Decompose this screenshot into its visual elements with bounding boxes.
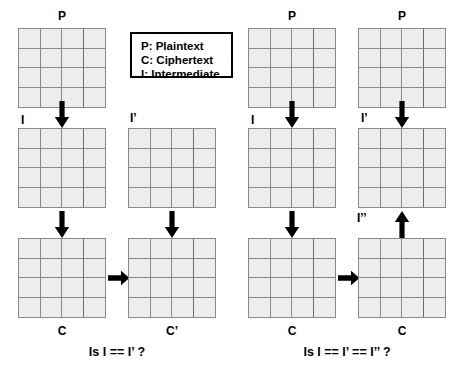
grid-cell: [194, 259, 216, 279]
grid-cell: [194, 188, 216, 208]
grid-cell: [84, 149, 106, 169]
right-label-i-double-prime: I’’: [357, 212, 367, 224]
grid-cell: [402, 29, 424, 49]
grid-cell: [359, 168, 381, 188]
grid-cell: [359, 239, 381, 259]
grid-cell: [292, 168, 314, 188]
grid-cell: [62, 188, 84, 208]
grid-cell: [151, 129, 173, 149]
arrow-down-i-to-c-right: [284, 211, 300, 239]
legend-line-ciphertext: C: Ciphertext: [141, 53, 223, 67]
grid-cell: [292, 149, 314, 169]
grid-cell: [62, 278, 84, 298]
grid-cell: [359, 68, 381, 88]
grid-cell: [271, 68, 293, 88]
left-label-c-prime: C’: [128, 325, 216, 337]
grid-cell: [19, 259, 41, 279]
arrow-down-p-to-i-prime-right: [394, 101, 410, 129]
grid-cell: [424, 278, 446, 298]
arrow-down-i-prime-to-c-prime: [164, 211, 180, 239]
grid-cell: [424, 29, 446, 49]
grid-cell: [271, 168, 293, 188]
grid-cell: [62, 49, 84, 69]
grid-cell: [19, 68, 41, 88]
grid-cell: [402, 259, 424, 279]
grid-cell: [359, 188, 381, 208]
grid-cell: [84, 68, 106, 88]
grid-cell: [41, 239, 63, 259]
grid-cell: [314, 149, 336, 169]
grid-cell: [292, 68, 314, 88]
grid-cell: [41, 129, 63, 149]
grid-cell: [424, 239, 446, 259]
grid-cell: [402, 49, 424, 69]
grid-cell: [271, 298, 293, 318]
left-grid-c-prime: [128, 238, 216, 318]
arrow-down-p-to-i-right: [284, 101, 300, 129]
left-label-p: P: [18, 10, 106, 22]
grid-cell: [381, 129, 403, 149]
grid-cell: [314, 298, 336, 318]
grid-cell: [41, 29, 63, 49]
grid-cell: [19, 298, 41, 318]
arrow-right-c-to-c: [338, 270, 360, 286]
grid-cell: [249, 278, 271, 298]
grid-cell: [62, 239, 84, 259]
grid-cell: [424, 68, 446, 88]
grid-cell: [314, 49, 336, 69]
grid-cell: [424, 298, 446, 318]
grid-cell: [381, 259, 403, 279]
grid-cell: [292, 259, 314, 279]
grid-cell: [402, 239, 424, 259]
grid-cell: [41, 278, 63, 298]
grid-cell: [314, 168, 336, 188]
grid-cell: [271, 29, 293, 49]
grid-cell: [129, 259, 151, 279]
arrow-down-i-to-c: [54, 211, 70, 239]
grid-cell: [424, 149, 446, 169]
grid-cell: [424, 188, 446, 208]
left-label-i-prime: I’: [130, 112, 137, 124]
right-label-c-left: C: [248, 325, 336, 337]
grid-cell: [271, 49, 293, 69]
grid-cell: [402, 168, 424, 188]
right-grid-c-right: [358, 238, 446, 318]
grid-cell: [129, 278, 151, 298]
diagram-canvas: P: Plaintext C: Ciphertext I: Intermedia…: [0, 0, 459, 369]
grid-cell: [292, 29, 314, 49]
grid-cell: [194, 129, 216, 149]
grid-cell: [249, 129, 271, 149]
grid-cell: [249, 29, 271, 49]
grid-cell: [314, 68, 336, 88]
grid-cell: [271, 278, 293, 298]
grid-cell: [359, 49, 381, 69]
grid-cell: [424, 168, 446, 188]
grid-cell: [62, 149, 84, 169]
grid-cell: [151, 239, 173, 259]
grid-cell: [314, 278, 336, 298]
grid-cell: [292, 298, 314, 318]
grid-cell: [381, 68, 403, 88]
grid-cell: [151, 259, 173, 279]
grid-cell: [249, 88, 271, 108]
grid-cell: [314, 129, 336, 149]
grid-cell: [359, 129, 381, 149]
grid-cell: [381, 239, 403, 259]
grid-cell: [151, 278, 173, 298]
grid-cell: [19, 88, 41, 108]
grid-cell: [381, 49, 403, 69]
grid-cell: [249, 68, 271, 88]
grid-cell: [129, 168, 151, 188]
grid-cell: [19, 168, 41, 188]
left-label-i: I: [21, 114, 24, 126]
grid-cell: [424, 129, 446, 149]
grid-cell: [249, 168, 271, 188]
grid-cell: [424, 49, 446, 69]
grid-cell: [249, 298, 271, 318]
grid-cell: [84, 239, 106, 259]
grid-cell: [381, 168, 403, 188]
grid-cell: [381, 29, 403, 49]
grid-cell: [402, 298, 424, 318]
right-grid-c-left: [248, 238, 336, 318]
right-grid-i-prime: [358, 128, 446, 208]
